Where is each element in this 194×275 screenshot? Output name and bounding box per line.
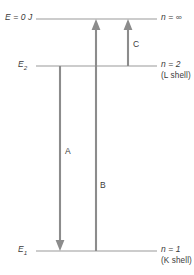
transition-label-c: C <box>133 40 139 50</box>
level-left-label-n-infinity: E = 0 J <box>5 13 32 23</box>
level-shell-label-n-1: (K shell) <box>161 256 192 265</box>
transition-a-arrowhead-down <box>56 240 65 251</box>
transition-label-b: B <box>100 181 106 191</box>
level-right-group-n-2: n = 2 (L shell) <box>161 60 191 80</box>
level-right-label-n-1: n = 1 <box>161 245 192 255</box>
transition-arrow-c <box>124 19 133 66</box>
transition-label-a: A <box>65 147 71 157</box>
transition-arrow-b <box>92 19 101 251</box>
transition-c-arrowhead-up <box>124 19 133 30</box>
level-shell-label-n-2: (L shell) <box>161 71 191 80</box>
transition-b-arrowhead-up <box>92 19 101 30</box>
level-right-group-n-infinity: n = ∞ <box>161 13 182 23</box>
energy-level-diagram: E = 0 J E2 E1 n = ∞ n = 2 (L shell) n = … <box>0 0 194 275</box>
diagram-canvas <box>0 0 194 275</box>
level-right-label-n-2: n = 2 <box>161 60 191 70</box>
level-left-label-n-2: E2 <box>18 60 27 71</box>
level-left-label-n-1: E1 <box>18 245 27 256</box>
transition-arrow-a <box>56 66 65 251</box>
level-right-group-n-1: n = 1 (K shell) <box>161 245 192 265</box>
level-left-label-n-1-subscript: 1 <box>24 249 28 256</box>
level-right-label-n-infinity: n = ∞ <box>161 13 182 23</box>
level-left-label-n-2-subscript: 2 <box>24 64 28 71</box>
